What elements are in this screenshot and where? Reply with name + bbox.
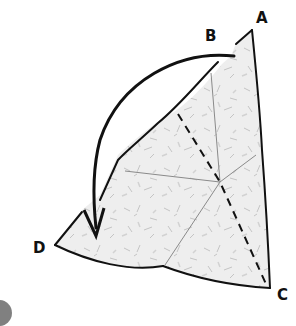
label-b: B <box>205 29 216 44</box>
label-a: A <box>256 11 268 26</box>
label-c: C <box>277 288 288 303</box>
label-d: D <box>33 241 45 256</box>
